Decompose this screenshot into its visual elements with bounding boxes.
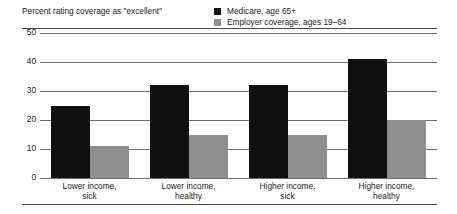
x-label-line-1: Lower income,: [139, 181, 238, 191]
gridline-0: [40, 178, 437, 179]
legend-swatch-medicare-icon: [214, 8, 221, 15]
x-axis-labels: Lower income, sick Lower income, healthy…: [40, 181, 437, 203]
y-tick-30: 30: [27, 86, 36, 95]
bar-group-higher-income-sick: [238, 33, 337, 178]
x-label-lower-income-healthy: Lower income, healthy: [139, 181, 238, 201]
y-tick-10: 10: [27, 144, 36, 153]
legend-item-employer: Employer coverage, ages 19–64: [214, 17, 346, 28]
x-label-line-1: Higher income,: [238, 181, 337, 191]
footer-divider: [22, 204, 437, 205]
chart-legend: Medicare, age 65+ Employer coverage, age…: [214, 6, 346, 28]
legend-swatch-employer-icon: [214, 19, 221, 26]
bar-group-lower-income-healthy: [139, 33, 238, 178]
bars-layer: [40, 33, 437, 178]
bar-medicare-lower-income-sick: [51, 106, 90, 179]
legend-item-medicare: Medicare, age 65+: [214, 6, 346, 17]
x-label-lower-income-sick: Lower income, sick: [40, 181, 139, 201]
bar-employer-higher-income-sick: [288, 135, 327, 179]
y-tick-20: 20: [27, 115, 36, 124]
bar-group-lower-income-sick: [40, 33, 139, 178]
x-label-line-2: healthy: [337, 191, 436, 201]
bar-medicare-higher-income-healthy: [348, 59, 387, 178]
bar-group-higher-income-healthy: [337, 33, 436, 178]
bar-employer-higher-income-healthy: [387, 120, 426, 178]
plot-area: [40, 33, 437, 178]
x-label-line-2: sick: [238, 191, 337, 201]
x-label-higher-income-sick: Higher income, sick: [238, 181, 337, 201]
legend-label-employer: Employer coverage, ages 19–64: [227, 17, 346, 28]
bar-employer-lower-income-sick: [90, 146, 129, 178]
y-tick-50: 50: [27, 28, 36, 37]
bar-employer-lower-income-healthy: [189, 135, 228, 179]
bar-medicare-higher-income-sick: [249, 85, 288, 178]
chart-title: Percent rating coverage as "excellent": [22, 6, 162, 17]
x-label-higher-income-healthy: Higher income, healthy: [337, 181, 436, 201]
legend-label-medicare: Medicare, age 65+: [227, 6, 296, 17]
bar-medicare-lower-income-healthy: [150, 85, 189, 178]
x-label-line-2: sick: [40, 191, 139, 201]
y-axis: 50 40 30 20 10 0: [18, 33, 36, 178]
x-label-line-1: Lower income,: [40, 181, 139, 191]
x-label-line-1: Higher income,: [337, 181, 436, 191]
x-label-line-2: healthy: [139, 191, 238, 201]
header-divider: [22, 28, 437, 29]
chart-header: Percent rating coverage as "excellent" M…: [22, 6, 442, 30]
y-tick-40: 40: [27, 57, 36, 66]
title-block: Percent rating coverage as "excellent": [22, 6, 162, 17]
y-tick-0: 0: [31, 173, 36, 182]
bar-chart-figure: Percent rating coverage as "excellent" M…: [0, 0, 457, 214]
